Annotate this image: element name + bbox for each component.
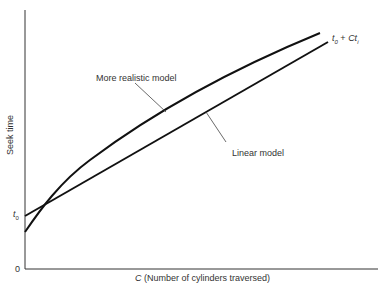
- linear-equation-label: t0 + Cti: [332, 33, 358, 45]
- x-axis-label: C (Number of cylinders traversed): [135, 273, 270, 283]
- realistic-model-label: More realistic model: [96, 73, 177, 83]
- realistic-model-curve: [25, 33, 320, 232]
- y-tick-t0: t0: [13, 209, 19, 221]
- linear-arrow: [206, 112, 226, 142]
- realistic-arrow: [135, 83, 166, 112]
- linear-model-label: Linear model: [232, 148, 284, 158]
- y-tick-zero: 0: [15, 264, 20, 274]
- y-axis-label: Seek time: [5, 115, 15, 155]
- linear-model-line: [25, 42, 328, 216]
